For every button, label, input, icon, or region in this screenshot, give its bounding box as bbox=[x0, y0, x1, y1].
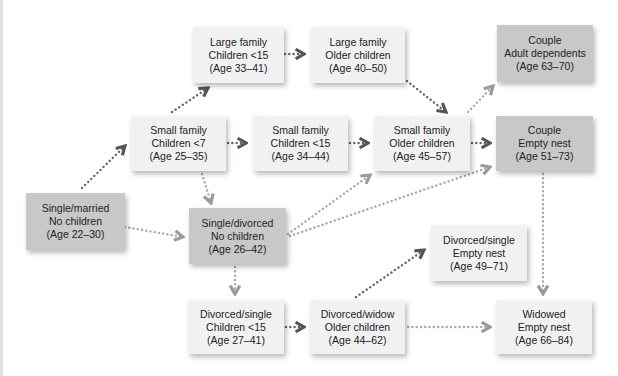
node-line-1: Divorced/single bbox=[443, 234, 515, 247]
node-single-divorced-no-children: Single/divorced No children (Age 26–42) bbox=[189, 208, 286, 264]
node-line-2: Adult dependents bbox=[504, 47, 586, 60]
node-line-3: (Age 34–44) bbox=[272, 150, 330, 163]
node-widowed-empty-nest: Widowed Empty nest (Age 66–84) bbox=[496, 300, 592, 354]
node-line-1: Single/divorced bbox=[202, 217, 274, 230]
node-line-3: (Age 27–41) bbox=[207, 334, 265, 347]
node-line-3: (Age 49–71) bbox=[450, 260, 508, 273]
edge-single-married-to-single-divorced bbox=[125, 227, 183, 237]
edge-small-children-7-to-large-children-15 bbox=[172, 88, 208, 112]
node-couple-empty-nest: Couple Empty nest (Age 51–73) bbox=[496, 116, 593, 171]
node-small-family-older-children: Small family Older children (Age 45–57) bbox=[374, 116, 470, 171]
node-divorced-single-children-15: Divorced/single Children <15 (Age 27–41) bbox=[188, 300, 284, 354]
node-line-2: Children <7 bbox=[152, 137, 206, 150]
node-line-3: (Age 51–73) bbox=[516, 150, 574, 163]
node-line-3: (Age 44–62) bbox=[329, 334, 387, 347]
edge-small-older-to-couple-adult-dep bbox=[468, 86, 493, 112]
node-line-2: Older children bbox=[325, 321, 390, 334]
node-line-3: (Age 22–30) bbox=[47, 228, 105, 241]
edge-single-divorced-to-small-older bbox=[288, 175, 370, 234]
node-single-married-no-children: Single/married No children (Age 22–30) bbox=[26, 193, 125, 250]
node-line-2: Children <15 bbox=[206, 321, 266, 334]
node-small-family-children-7: Small family Children <7 (Age 25–35) bbox=[131, 116, 226, 171]
node-line-2: No children bbox=[211, 230, 264, 243]
node-line-1: Couple bbox=[528, 124, 561, 137]
node-line-1: Divorced/single bbox=[200, 308, 272, 321]
node-line-1: Widowed bbox=[522, 308, 565, 321]
edge-small-children-7-to-single-divorced bbox=[202, 174, 211, 203]
node-line-1: Large family bbox=[329, 36, 386, 49]
node-couple-adult-dependents: Couple Adult dependents (Age 63–70) bbox=[497, 25, 593, 82]
node-line-2: Children <15 bbox=[271, 137, 331, 150]
node-line-2: Empty nest bbox=[453, 247, 506, 260]
node-line-2: Older children bbox=[325, 49, 390, 62]
node-divorced-single-empty-nest: Divorced/single Empty nest (Age 49–71) bbox=[431, 225, 527, 281]
node-line-2: Empty nest bbox=[518, 321, 571, 334]
node-line-3: (Age 26–42) bbox=[209, 243, 267, 256]
node-line-3: (Age 63–70) bbox=[516, 60, 574, 73]
node-large-family-children-15: Large family Children <15 (Age 33–41) bbox=[193, 27, 284, 83]
node-line-3: (Age 66–84) bbox=[515, 334, 573, 347]
node-line-3: (Age 40–50) bbox=[329, 62, 387, 75]
edge-large-older-to-small-older bbox=[407, 81, 446, 112]
edge-single-married-to-small-children-7 bbox=[82, 146, 125, 188]
node-line-1: Divorced/widow bbox=[321, 308, 395, 321]
node-line-1: Large family bbox=[210, 36, 267, 49]
node-line-2: Empty nest bbox=[518, 137, 571, 150]
node-line-3: (Age 25–35) bbox=[150, 150, 208, 163]
node-line-2: No children bbox=[49, 215, 102, 228]
node-divorced-widow-older-children: Divorced/widow Older children (Age 44–62… bbox=[310, 300, 405, 354]
node-line-1: Single/married bbox=[42, 202, 110, 215]
node-line-1: Small family bbox=[394, 124, 451, 137]
node-line-3: (Age 33–41) bbox=[210, 62, 268, 75]
node-line-2: Children <15 bbox=[209, 49, 269, 62]
node-large-family-older-children: Large family Older children (Age 40–50) bbox=[311, 27, 405, 83]
edge-divorced-widow-older-to-divorced-empty-nest bbox=[356, 250, 424, 297]
node-line-2: Older children bbox=[389, 137, 454, 150]
node-small-family-children-15: Small family Children <15 (Age 34–44) bbox=[253, 116, 348, 171]
node-line-3: (Age 45–57) bbox=[393, 150, 451, 163]
node-line-1: Small family bbox=[150, 124, 207, 137]
node-line-1: Couple bbox=[528, 34, 561, 47]
node-line-1: Small family bbox=[272, 124, 329, 137]
